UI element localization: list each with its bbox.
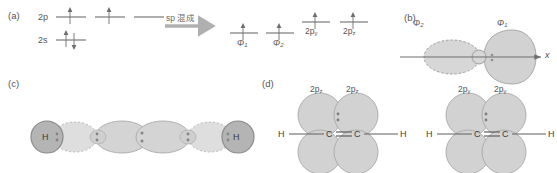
panel-d-left-atom-c-left: C xyxy=(326,129,333,139)
electron-arrows-2p xyxy=(68,7,112,24)
panel-d-left-pi-bond-2pz xyxy=(289,93,398,173)
panel-d-right-atom-c-left: C xyxy=(474,129,481,139)
panel-a-energy-levels xyxy=(56,7,368,50)
node-right xyxy=(180,130,196,144)
hybrid-label-phi1: Φ1 xyxy=(237,38,247,48)
sp-hybridization-label: sp 混成 xyxy=(166,11,195,23)
figure-graphics xyxy=(0,0,557,173)
node-left xyxy=(90,130,106,144)
level-2p-orbitals xyxy=(56,7,164,24)
panel-c-sigma-framework xyxy=(31,121,254,153)
level-label-2p: 2p xyxy=(38,12,48,22)
hybrid-phi1-sub: 1 xyxy=(244,42,247,48)
panel-b-hybrid-orbital-shape xyxy=(400,30,541,84)
panel-d-left-orb-label-1: 2pz xyxy=(310,84,322,94)
panel-d-right-orb-label-2: 2py xyxy=(494,84,506,94)
panel-d-right-orb-label-1: 2py xyxy=(458,84,470,94)
hybrid-phi2-sub: 2 xyxy=(280,42,283,48)
panel-label-d: (d) xyxy=(262,78,274,89)
panel-d-left-orb2-sub: z xyxy=(355,88,358,94)
panel-d-right-pi-bond-2py xyxy=(437,93,546,173)
panel-d-left-orb-label-2: 2pz xyxy=(346,84,358,94)
panel-d-left-orb1-sub: z xyxy=(319,88,322,94)
figure-sp-hybridization-acetylene: (a) (b) (c) (d) 2p 2s sp 混成 Φ1 Φ2 2py 2p… xyxy=(0,0,557,173)
hybrid-label-phi2: Φ2 xyxy=(273,38,283,48)
panel-d-right-atom-c-right: C xyxy=(502,129,509,139)
p-orbital-label-2pz: 2pz xyxy=(343,26,355,36)
panel-c-atom-label-h-right: H xyxy=(233,132,240,142)
panel-b-axis-label-x: x xyxy=(545,50,550,60)
panel-d-right-atom-h-right: H xyxy=(548,129,555,139)
panel-d-left-atom-h-left: H xyxy=(278,129,285,139)
p-label-2pz-sub: z xyxy=(352,30,355,36)
panel-b-label-phi2: Φ2 xyxy=(413,18,423,28)
p-orbital-label-2py: 2py xyxy=(305,26,317,36)
panel-label-c: (c) xyxy=(8,78,19,89)
panel-d-right-atom-h-left: H xyxy=(426,129,433,139)
panel-d-right-orb1-sub: y xyxy=(467,88,470,94)
panel-b-phi1-sub: 1 xyxy=(504,22,507,28)
level-2s-orbital xyxy=(56,30,86,50)
panel-c-atom-label-h-left: H xyxy=(42,132,49,142)
panel-d-right-orb2-sub: y xyxy=(503,88,506,94)
p-label-2py-sub: y xyxy=(314,30,317,36)
level-label-2s: 2s xyxy=(38,35,48,45)
panel-d-left-atom-h-right: H xyxy=(400,129,407,139)
panel-d-left-atom-c-right: C xyxy=(354,129,361,139)
panel-b-phi2-sub: 2 xyxy=(420,22,423,28)
panel-label-a: (a) xyxy=(8,10,20,21)
panel-b-label-phi1: Φ1 xyxy=(497,18,507,28)
